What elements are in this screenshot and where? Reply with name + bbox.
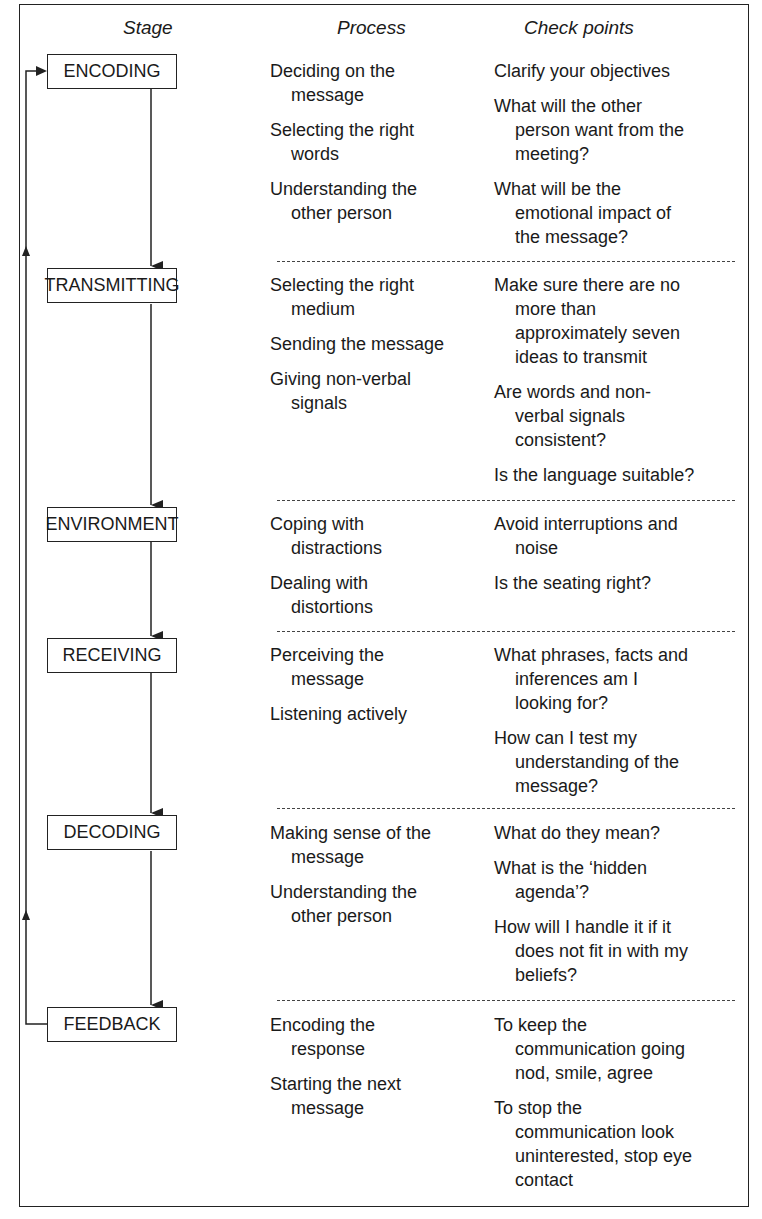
process-item: Making sense of themessage xyxy=(270,821,485,869)
stage-label: FEEDBACK xyxy=(63,1014,160,1035)
text-line: uninterested, stop eye xyxy=(494,1144,744,1168)
text-line: Deciding on the xyxy=(270,59,485,83)
text-line: noise xyxy=(494,536,744,560)
text-line: Encoding the xyxy=(270,1013,485,1037)
text-line: message xyxy=(270,845,485,869)
process-list-decoding: Making sense of themessageUnderstanding … xyxy=(270,821,485,939)
checkpoint-item: What will the otherperson want from them… xyxy=(494,94,744,166)
text-line: How can I test my xyxy=(494,726,744,750)
text-line: Understanding the xyxy=(270,880,485,904)
text-line: Giving non-verbal xyxy=(270,367,485,391)
section-divider xyxy=(277,500,735,501)
text-line: Avoid interruptions and xyxy=(494,512,744,536)
text-line: To stop the xyxy=(494,1096,744,1120)
text-line: emotional impact of xyxy=(494,201,744,225)
checkpoint-item: Clarify your objectives xyxy=(494,59,744,83)
text-line: What is the ‘hidden xyxy=(494,856,744,880)
text-line: verbal signals xyxy=(494,404,744,428)
process-item: Listening actively xyxy=(270,702,485,726)
process-list-receiving: Perceiving themessageListening actively xyxy=(270,643,485,737)
text-line: Coping with xyxy=(270,512,485,536)
checkpoint-list-environment: Avoid interruptions andnoiseIs the seati… xyxy=(494,512,744,606)
stage-box-environment: ENVIRONMENT xyxy=(47,507,177,542)
text-line: understanding of the xyxy=(494,750,744,774)
text-line: beliefs? xyxy=(494,963,744,987)
text-line: Is the seating right? xyxy=(494,571,744,595)
stage-label: RECEIVING xyxy=(62,645,161,666)
checkpoint-item: Is the language suitable? xyxy=(494,463,744,487)
process-list-feedback: Encoding theresponseStarting the nextmes… xyxy=(270,1013,485,1131)
section-divider xyxy=(277,1000,735,1001)
process-item: Selecting the rightmedium xyxy=(270,273,485,321)
checkpoint-item: Avoid interruptions andnoise xyxy=(494,512,744,560)
checkpoint-item: What is the ‘hiddenagenda’? xyxy=(494,856,744,904)
text-line: Make sure there are no xyxy=(494,273,744,297)
text-line: communication look xyxy=(494,1120,744,1144)
text-line: What do they mean? xyxy=(494,821,744,845)
text-line: What will the other xyxy=(494,94,744,118)
text-line: How will I handle it if it xyxy=(494,915,744,939)
process-item: Starting the nextmessage xyxy=(270,1072,485,1120)
text-line: meeting? xyxy=(494,142,744,166)
text-line: What phrases, facts and xyxy=(494,643,744,667)
stage-label: DECODING xyxy=(63,822,160,843)
process-item: Sending the message xyxy=(270,332,485,356)
text-line: ideas to transmit xyxy=(494,345,744,369)
text-line: person want from the xyxy=(494,118,744,142)
text-line: Are words and non- xyxy=(494,380,744,404)
text-line: distractions xyxy=(270,536,485,560)
stage-box-transmitting: TRANSMITTING xyxy=(47,268,177,303)
text-line: the message? xyxy=(494,225,744,249)
text-line: nod, smile, agree xyxy=(494,1061,744,1085)
stage-box-feedback: FEEDBACK xyxy=(47,1007,177,1042)
text-line: other person xyxy=(270,201,485,225)
checkpoint-item: What will be theemotional impact ofthe m… xyxy=(494,177,744,249)
text-line: Listening actively xyxy=(270,702,485,726)
stage-box-encoding: ENCODING xyxy=(47,54,177,89)
text-line: What will be the xyxy=(494,177,744,201)
process-item: Understanding theother person xyxy=(270,880,485,928)
section-divider xyxy=(277,631,735,632)
text-line: other person xyxy=(270,904,485,928)
text-line: message xyxy=(270,667,485,691)
checkpoint-list-feedback: To keep thecommunication goingnod, smile… xyxy=(494,1013,744,1203)
process-list-transmitting: Selecting the rightmediumSending the mes… xyxy=(270,273,485,426)
process-item: Coping withdistractions xyxy=(270,512,485,560)
text-line: Selecting the right xyxy=(270,273,485,297)
process-item: Understanding theother person xyxy=(270,177,485,225)
checkpoint-list-receiving: What phrases, facts andinferences am Ilo… xyxy=(494,643,744,809)
process-item: Selecting the rightwords xyxy=(270,118,485,166)
process-item: Giving non-verbalsignals xyxy=(270,367,485,415)
text-line: looking for? xyxy=(494,691,744,715)
text-line: medium xyxy=(270,297,485,321)
text-line: Dealing with xyxy=(270,571,485,595)
stage-box-decoding: DECODING xyxy=(47,815,177,850)
checkpoint-item: To keep thecommunication goingnod, smile… xyxy=(494,1013,744,1085)
checkpoint-item: What phrases, facts andinferences am Ilo… xyxy=(494,643,744,715)
checkpoint-list-encoding: Clarify your objectivesWhat will the oth… xyxy=(494,59,744,260)
process-item: Dealing withdistortions xyxy=(270,571,485,619)
text-line: message? xyxy=(494,774,744,798)
text-line: does not fit in with my xyxy=(494,939,744,963)
text-line: Perceiving the xyxy=(270,643,485,667)
text-line: Selecting the right xyxy=(270,118,485,142)
process-item: Encoding theresponse xyxy=(270,1013,485,1061)
checkpoint-item: Are words and non-verbal signalsconsiste… xyxy=(494,380,744,452)
text-line: response xyxy=(270,1037,485,1061)
process-list-encoding: Deciding on themessageSelecting the righ… xyxy=(270,59,485,236)
loop-up-arrow-icon xyxy=(22,910,30,920)
checkpoint-item: To stop thecommunication lookunintereste… xyxy=(494,1096,744,1192)
text-line: To keep the xyxy=(494,1013,744,1037)
loop-up-arrow-icon xyxy=(22,246,30,256)
text-line: agenda’? xyxy=(494,880,744,904)
text-line: signals xyxy=(270,391,485,415)
text-line: communication going xyxy=(494,1037,744,1061)
text-line: Is the language suitable? xyxy=(494,463,744,487)
checkpoint-list-decoding: What do they mean?What is the ‘hiddenage… xyxy=(494,821,744,998)
stage-box-receiving: RECEIVING xyxy=(47,638,177,673)
stage-label: ENVIRONMENT xyxy=(46,514,179,535)
feedback-arrowhead-icon xyxy=(36,66,47,76)
text-line: message xyxy=(270,83,485,107)
checkpoint-item: Is the seating right? xyxy=(494,571,744,595)
text-line: Understanding the xyxy=(270,177,485,201)
